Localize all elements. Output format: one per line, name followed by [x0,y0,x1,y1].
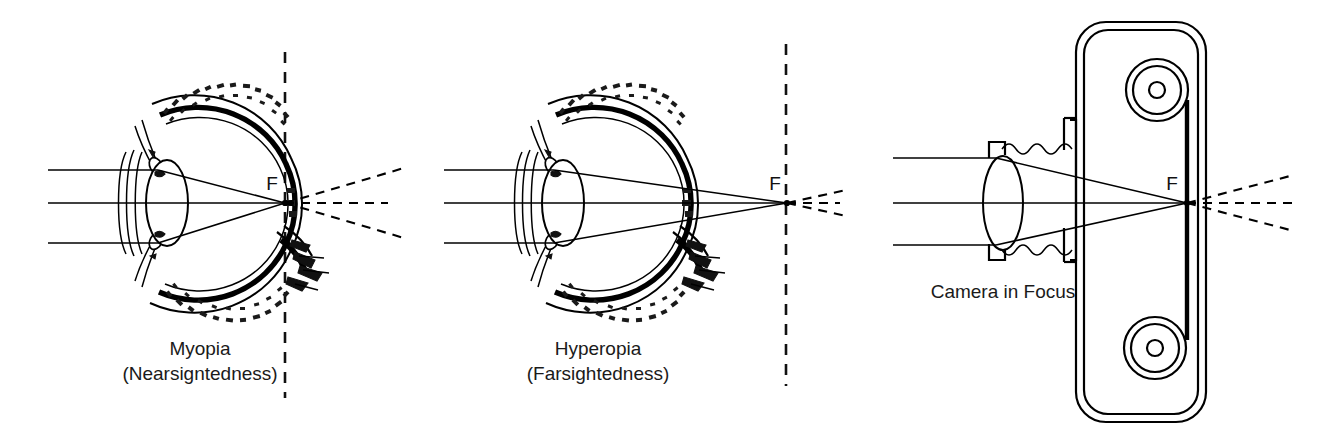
focal-label-hyperopia: F [769,173,781,194]
panel-label-camera: Camera in Focus [931,281,1076,302]
panel-label-myopia-line1: Myopia [169,338,231,359]
panel-label-hyperopia-line1: Hyperopia [555,338,642,359]
focal-label-myopia: F [266,173,278,194]
iris-lower [155,231,165,237]
focal-label-camera: F [1166,173,1178,194]
panel-label-myopia-line2: (Nearsigntedness) [122,363,277,384]
refraction-diagram: F Myopia (Nearsigntedness) [0,0,1336,439]
focal-point-hyperopia [784,200,790,206]
panel-label-hyperopia-line2: (Farsightedness) [527,363,670,384]
iris-upper [551,171,561,177]
diagram-canvas: F Myopia (Nearsigntedness) [0,0,1336,439]
focal-point-myopia [282,200,288,206]
iris-lower [551,231,561,237]
focal-point-camera [1184,200,1190,206]
